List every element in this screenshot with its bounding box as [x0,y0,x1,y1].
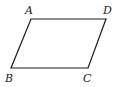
parallelogram-diagram: A D C B [0,0,118,87]
vertex-label-d: D [102,4,112,17]
vertex-label-b: B [4,72,13,85]
vertex-label-a: A [24,4,33,17]
vertex-label-c: C [83,72,92,85]
parallelogram-abcd [11,19,106,68]
